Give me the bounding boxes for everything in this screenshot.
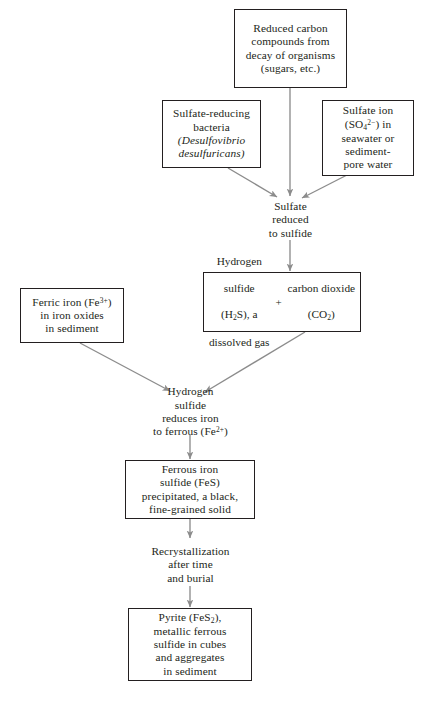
co2-line1: carbon dioxide (287, 282, 356, 295)
plus-sign: + (274, 296, 282, 309)
node-sulfate-ion-line3: seawater or (320, 132, 416, 145)
h2s-line4: dissolved gas (208, 336, 270, 349)
reduces-iron-line2: sulfide (130, 399, 251, 412)
ferric-formula-sup: 3+ (100, 295, 108, 304)
node-reduced-carbon-compounds: Reduced carbon compounds from decay of o… (234, 9, 347, 88)
node-ferrous-iron-sulfide: Ferrous iron sulfide (FeS) precipitated,… (125, 460, 255, 519)
node-hydrogen-sulfide-reduces-iron: Hydrogen sulfide reduces iron to ferrous… (133, 386, 248, 438)
edge-bacteria-to-sulfate-reduced (228, 168, 277, 197)
node-sulfate-ion-formula: (SO42−) in (320, 118, 416, 132)
pyrite-line3: sulfide in cubes (126, 638, 254, 651)
sulfate-formula-post: ) in (375, 118, 391, 130)
node-hydrogen-sulfide-gas: Hydrogen sulfide (H2S), a dissolved gas (204, 242, 274, 362)
co2-formula: (CO2) (287, 308, 356, 322)
node-sulfate-reducing-bacteria-label: Sulfate-reducing (160, 107, 263, 120)
node-bacteria-species-line2: desulfuricans) (160, 147, 263, 160)
reduces-iron-line1: Hydrogen (130, 385, 251, 398)
node-hydrogen-sulfide-and-carbon-dioxide-box: Hydrogen sulfide (H2S), a dissolved gas … (203, 272, 361, 332)
sulfate-formula-pre: (SO (345, 118, 364, 130)
node-recrystallization-label: Recrystallization after time and burial (136, 545, 245, 585)
node-recrystallization: Recrystallization after time and burial (136, 544, 245, 586)
ferrous-formula-pre: to ferrous (Fe (153, 425, 216, 437)
node-sulfate-reducing-bacteria: Sulfate-reducing bacteria (Desulfovibrio… (162, 100, 261, 168)
fes-line4: fine-grained solid (123, 503, 257, 516)
edge-ferric-iron-to-reduction (80, 343, 170, 391)
edge-sulfate-ion-to-sulfate-reduced (302, 175, 347, 198)
h2s-formula: (H2S), a (208, 308, 270, 322)
pyrite-line4: and aggregates (126, 651, 254, 664)
node-sulfate-ion-line1: Sulfate ion (320, 104, 416, 117)
ferric-formula-pre: Ferric iron (Fe (32, 296, 99, 308)
node-reduced-carbon-compounds-label: Reduced carbon compounds from decay of o… (235, 22, 346, 75)
ferrous-formula-post: ) (224, 425, 228, 437)
node-sulfate-reducing-bacteria-label2: bacteria (160, 121, 263, 134)
node-sulfate-ion-line4: sediment- (320, 145, 416, 158)
node-sulfate-reduced-to-sulfide-label: Sulfate reduced to sulfide (248, 200, 333, 240)
node-ferric-iron: Ferric iron (Fe3+) in iron oxides in sed… (20, 288, 124, 343)
h2s-line1: Hydrogen (208, 255, 270, 268)
reduces-iron-line3: reduces iron (130, 412, 251, 425)
reduces-iron-ferrous-formula: to ferrous (Fe2+) (130, 425, 251, 438)
pyrite-line2: metallic ferrous (126, 625, 254, 638)
fes-line1: Ferrous iron (123, 463, 257, 476)
co2-formula-pre: (CO (308, 308, 327, 320)
ferrous-formula-sup: 2+ (216, 425, 224, 434)
pyrite-formula: Pyrite (FeS2), (126, 611, 254, 625)
node-sulfate-ion: Sulfate ion (SO42−) in seawater or sedim… (322, 100, 414, 176)
node-sulfate-reduced-to-sulfide: Sulfate reduced to sulfide (248, 199, 333, 241)
node-ferric-iron-formula: Ferric iron (Fe3+) (18, 296, 126, 309)
co2-formula-post: ) (331, 308, 335, 320)
pyrite-line5: in sediment (126, 665, 254, 678)
h2s-formula-post: S), a (237, 308, 258, 320)
fes-line2: sulfide (FeS) (123, 476, 257, 489)
node-carbon-dioxide: carbon dioxide (CO2) (283, 268, 360, 335)
node-pyrite: Pyrite (FeS2), metallic ferrous sulfide … (128, 608, 252, 681)
h2s-line2: sulfide (208, 282, 270, 295)
node-ferric-iron-line2: in iron oxides (18, 309, 126, 322)
flowchart-diagram: Reduced carbon compounds from decay of o… (0, 0, 427, 702)
node-bacteria-species-line1: (Desulfovibrio (160, 134, 263, 147)
fes-line3: precipitated, a black, (123, 490, 257, 503)
ferric-formula-post: ) (108, 296, 112, 308)
node-ferric-iron-line3: in sediment (18, 322, 126, 335)
pyrite-formula-post: ), (215, 611, 222, 623)
pyrite-formula-pre: Pyrite (FeS (159, 611, 211, 623)
node-sulfate-ion-line5: pore water (320, 158, 416, 171)
h2s-formula-pre: (H (221, 308, 233, 320)
